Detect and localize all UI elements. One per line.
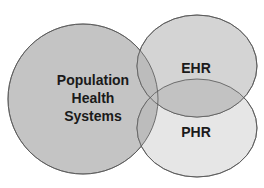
phr-label: PHR: [181, 124, 211, 140]
population-label-line2: Health: [72, 90, 115, 106]
population-label-line3: Systems: [64, 108, 122, 124]
venn-diagram: Population Health Systems EHR PHR: [0, 0, 264, 188]
population-label-line1: Population: [57, 72, 129, 88]
ehr-label: EHR: [181, 60, 211, 76]
